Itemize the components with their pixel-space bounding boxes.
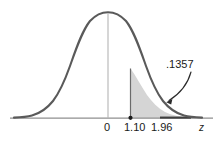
axis-variable-label-z: z: [199, 123, 204, 133]
axis-tick-label-110: 1.10: [124, 122, 145, 133]
shaded-tail-area: [131, 69, 189, 119]
annotation-arrow-line: [169, 72, 191, 101]
shaded-area-label: .1357: [166, 59, 194, 70]
normal-distribution-figure: .1357 0 1.10 1.96 z: [0, 0, 220, 143]
marker-point-110: [128, 116, 132, 120]
axis-tick-label-196: 1.96: [151, 122, 172, 133]
axis-tick-label-0: 0: [104, 122, 110, 133]
